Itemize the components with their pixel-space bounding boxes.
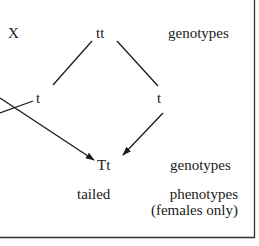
offspring-phenotype: tailed	[77, 187, 110, 202]
arrow-left-gamete-to-offspring	[0, 98, 94, 160]
cross-symbol: X	[8, 26, 19, 41]
line-from-left-offscreen-gamete	[0, 101, 33, 113]
row-label-offspring-genotypes: genotypes	[170, 158, 231, 173]
row-label-phenotypes-note: (females only)	[151, 203, 238, 218]
gamete-right: t	[157, 91, 161, 106]
arrow-right-gamete-to-offspring	[123, 113, 163, 155]
line-parent-to-right-gamete	[117, 41, 158, 86]
gamete-left: t	[36, 91, 40, 106]
line-parent-to-left-gamete	[53, 41, 92, 85]
row-label-phenotypes: phenotypes	[170, 187, 238, 202]
row-label-parent-genotypes: genotypes	[168, 26, 229, 41]
offspring-genotype: Tt	[97, 158, 110, 173]
parent-genotype: tt	[96, 26, 104, 41]
